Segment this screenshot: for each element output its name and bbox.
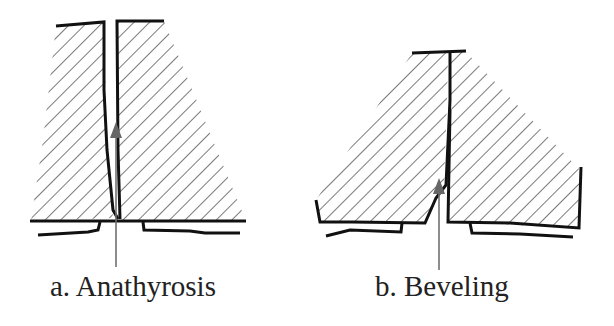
panel-b-beveling (316, 51, 581, 270)
right-block-b (448, 52, 580, 228)
left-block-a (31, 22, 113, 221)
left-block-b (316, 52, 448, 223)
caption-anathyrosis: a. Anathyrosis (50, 270, 216, 303)
panel-a-anathyrosis (30, 21, 246, 267)
right-block-a (117, 21, 246, 221)
caption-beveling: b. Beveling (375, 270, 509, 303)
